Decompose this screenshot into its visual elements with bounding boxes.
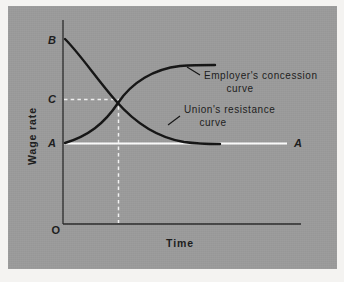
axes-group [63, 20, 301, 224]
union-resistance-curve [65, 39, 220, 144]
label-point-a-right: A [293, 137, 302, 149]
label-point-c: C [48, 93, 57, 105]
diagram-plate: B C A A O Wage rate Time Employer's conc… [8, 6, 337, 269]
label-point-b: B [48, 34, 56, 46]
employer-label-leader [187, 67, 200, 75]
reference-lines-group [64, 100, 287, 224]
figure-root: B C A A O Wage rate Time Employer's conc… [0, 0, 344, 282]
employer-curve-annotation-line1: Employer's concession [204, 70, 318, 81]
y-axis-title: Wage rate [26, 107, 38, 165]
bargaining-model-chart: B C A A O Wage rate Time Employer's conc… [8, 6, 337, 269]
employer-curve-annotation: Employer's concession curve [204, 70, 318, 94]
x-axis-title: Time [166, 237, 194, 249]
union-curve-annotation-line2: curve [199, 117, 226, 128]
union-curve-annotation: Union's resistance curve [184, 104, 275, 128]
leader-lines-group [168, 67, 200, 125]
label-point-a-left: A [47, 137, 56, 149]
union-curve-annotation-line1: Union's resistance [184, 104, 275, 115]
union-label-leader [168, 116, 180, 125]
employer-curve-annotation-line2: curve [226, 83, 253, 94]
curves-group [65, 39, 220, 144]
label-origin: O [52, 224, 61, 236]
